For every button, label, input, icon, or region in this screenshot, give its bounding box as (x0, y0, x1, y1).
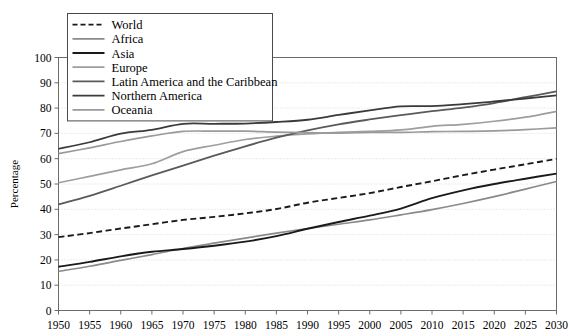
legend-label: Asia (112, 47, 135, 61)
series-line-africa (59, 181, 557, 271)
series-line-asia (59, 174, 557, 267)
y-tick-label: 0 (46, 305, 52, 317)
y-tick-label: 50 (40, 178, 52, 190)
legend-label: Northern America (112, 89, 203, 103)
x-tick-label: 1960 (109, 319, 132, 331)
x-tick-label: 1970 (172, 319, 195, 331)
x-tick-label: 1955 (78, 319, 101, 331)
y-axis-label: Percentage (8, 160, 20, 208)
x-tick-label: 1980 (234, 319, 257, 331)
y-tick-label: 20 (40, 254, 52, 266)
x-tick-label: 1985 (265, 319, 288, 331)
x-tick-label: 2005 (389, 319, 412, 331)
x-tick-label: 1975 (203, 319, 226, 331)
x-tick-label: 2015 (452, 319, 475, 331)
x-tick-label: 2010 (421, 319, 444, 331)
y-tick-label: 100 (34, 52, 52, 64)
y-tick-label: 40 (40, 203, 52, 215)
y-tick-label: 80 (40, 102, 52, 114)
line-chart: 0102030405060708090100 19501955196019651… (0, 0, 570, 336)
legend: WorldAfricaAsiaEuropeLatin America and t… (68, 14, 279, 121)
x-tick-label: 1990 (296, 319, 319, 331)
legend-label: Latin America and the Caribbean (112, 75, 279, 89)
y-tick-label: 10 (40, 279, 52, 291)
legend-label: World (112, 18, 144, 32)
x-tick-label: 2030 (545, 319, 568, 331)
x-tick-label: 2020 (483, 319, 506, 331)
x-axis-ticks: 1950195519601965197019751980198519901995… (47, 311, 568, 331)
y-axis-ticks: 0102030405060708090100 (34, 52, 58, 317)
x-tick-label: 1950 (47, 319, 70, 331)
legend-label: Africa (112, 32, 144, 46)
x-tick-label: 2000 (358, 319, 381, 331)
y-tick-label: 60 (40, 153, 52, 165)
y-tick-label: 70 (40, 127, 52, 139)
y-tick-label: 90 (40, 77, 52, 89)
y-tick-label: 30 (40, 229, 52, 241)
series-line-world (59, 159, 557, 237)
legend-label: Oceania (112, 103, 153, 117)
chart-container: 0102030405060708090100 19501955196019651… (0, 0, 570, 336)
x-tick-label: 2025 (514, 319, 537, 331)
x-tick-label: 1965 (140, 319, 163, 331)
legend-label: Europe (112, 61, 149, 75)
x-tick-label: 1995 (327, 319, 350, 331)
